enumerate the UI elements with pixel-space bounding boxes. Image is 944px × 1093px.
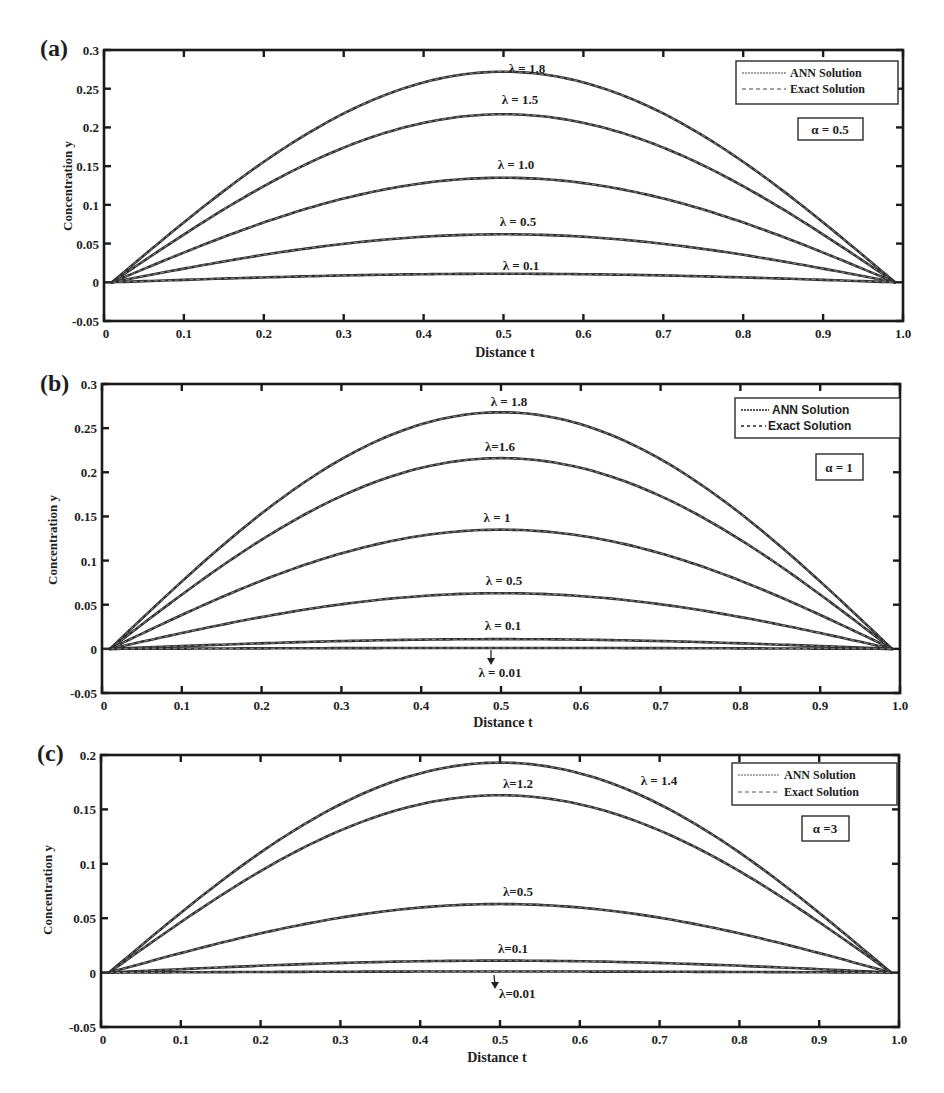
panel-c-legend: ANN Solution Exact Solution: [732, 763, 897, 805]
x-tick-label: 0.8: [731, 1032, 748, 1047]
y-tick-label: -0.05: [72, 314, 100, 329]
x-tick-label: 1.0: [891, 1032, 907, 1047]
panel-b-y-axis-label: Concentration y: [45, 495, 60, 585]
y-tick-label: -0.05: [69, 1020, 97, 1035]
panel-c-label-lambda-1-2: λ=1.2: [503, 776, 533, 791]
panel-c-label-lambda-1-4: λ = 1.4: [641, 773, 678, 788]
ann-solution-curve: [110, 648, 892, 649]
panel-a-tag: (a): [40, 35, 68, 61]
panel-b-label-lambda-0-1: λ = 0.1: [485, 618, 522, 633]
panel-b-alpha-label: α = 1: [825, 460, 853, 475]
x-tick-label: 0.6: [575, 326, 592, 341]
x-tick-label: 0.1: [176, 326, 192, 341]
panel-b-legend: ANN Solution Exact Solution: [735, 398, 900, 438]
y-tick-label: 0.05: [76, 237, 99, 252]
panel-b-legend-ann: ANN Solution: [772, 403, 849, 417]
figure: (a) -0.0500.050.10.150.20.250.3 00.10.20…: [0, 0, 944, 1093]
x-tick-label: 0.4: [415, 326, 432, 341]
y-tick-label: 0.3: [83, 43, 100, 58]
y-tick-label: -0.05: [70, 686, 98, 701]
x-tick-label: 0: [101, 698, 108, 713]
y-tick-label: 0.25: [74, 421, 97, 436]
x-tick-label: 0.2: [253, 698, 269, 713]
x-tick-label: 0.2: [252, 1032, 268, 1047]
panel-a: (a) -0.0500.050.10.150.20.250.3 00.10.20…: [40, 35, 911, 360]
x-tick-label: 0.9: [811, 1032, 828, 1047]
x-tick-label: 0.7: [655, 326, 672, 341]
y-tick-label: 0: [90, 966, 97, 981]
panel-c-label-lambda-0-5: λ=0.5: [503, 884, 534, 899]
y-tick-label: 0.15: [74, 509, 97, 524]
ann-solution-curve: [109, 904, 891, 973]
panel-a-label-lambda-0-5: λ = 0.5: [500, 214, 537, 229]
x-tick-label: 0.2: [256, 326, 272, 341]
panel-b-legend-exact: Exact Solution: [768, 419, 851, 433]
panel-c-x-axis-label: Distance t: [467, 1050, 527, 1065]
x-tick-label: 0.5: [495, 326, 512, 341]
panel-a-x-axis-label: Distance t: [475, 345, 535, 360]
x-tick-label: 0.5: [492, 1032, 509, 1047]
y-tick-label: 0.2: [83, 120, 99, 135]
panel-a-label-lambda-0-1: λ = 0.1: [503, 258, 540, 273]
panel-c-y-axis-label: Concentration y: [40, 845, 55, 935]
y-tick-label: 0: [93, 275, 100, 290]
panel-c-label-lambda-0-1: λ=0.1: [498, 941, 528, 956]
y-tick-label: 0.05: [73, 911, 96, 926]
panel-c-legend-exact: Exact Solution: [784, 785, 859, 799]
y-tick-label: 0.25: [76, 82, 99, 97]
panel-a-label-lambda-1-0: λ = 1.0: [498, 157, 535, 172]
x-tick-label: 0: [100, 1032, 107, 1047]
y-tick-label: 0.1: [81, 554, 97, 569]
panel-a-legend-ann: ANN Solution: [790, 66, 862, 80]
panel-b-label-lambda-1: λ = 1: [484, 510, 511, 525]
y-tick-label: 0.2: [81, 465, 97, 480]
panel-b-label-lambda-1-6: λ=1.6: [485, 439, 516, 454]
x-tick-label: 0.3: [333, 698, 350, 713]
x-tick-label: 0.3: [332, 1032, 349, 1047]
panel-b-label-lambda-0-01: λ = 0.01: [478, 665, 521, 680]
x-tick-label: 0.6: [573, 698, 590, 713]
y-tick-label: 0.3: [81, 377, 98, 392]
panel-c-alpha-label: α =3: [813, 821, 838, 836]
x-tick-label: 0: [103, 326, 110, 341]
panel-a-label-lambda-1-8: λ = 1.8: [509, 61, 546, 76]
panel-b: (b) -0.0500.050.10.150.20.250.3 00.10.20…: [40, 370, 908, 730]
y-tick-label: 0.15: [73, 802, 96, 817]
y-tick-label: 0.1: [80, 857, 96, 872]
panel-c-tag: (c): [37, 740, 64, 766]
y-tick-label: 0.1: [83, 198, 99, 213]
exact-solution-curve: [109, 904, 891, 973]
x-tick-label: 0.4: [413, 698, 430, 713]
panel-a-label-lambda-1-5: λ = 1.5: [502, 92, 539, 107]
panel-b-x-axis-label: Distance t: [473, 715, 533, 730]
x-tick-label: 0.9: [812, 698, 829, 713]
x-tick-label: 0.1: [174, 698, 190, 713]
y-tick-label: 0.2: [80, 748, 96, 763]
panel-a-legend-exact: Exact Solution: [790, 82, 865, 96]
x-tick-label: 0.1: [173, 1032, 189, 1047]
panel-b-arrowhead-icon: [487, 658, 495, 665]
x-tick-label: 0.4: [412, 1032, 429, 1047]
panel-a-alpha-label: α = 0.5: [811, 122, 849, 137]
y-tick-label: 0: [91, 642, 98, 657]
panel-a-y-axis-label: Concentration y: [60, 141, 75, 231]
panel-b-tag: (b): [40, 370, 69, 396]
panel-b-label-lambda-0-5: λ = 0.5: [486, 573, 523, 588]
x-tick-label: 0.5: [493, 698, 510, 713]
x-tick-label: 1.0: [895, 326, 911, 341]
x-tick-label: 0.9: [815, 326, 832, 341]
x-tick-label: 0.7: [652, 698, 669, 713]
figure-canvas: (a) -0.0500.050.10.150.20.250.3 00.10.20…: [0, 0, 944, 1093]
panel-c-arrowhead-icon: [491, 982, 499, 989]
panel-a-legend: ANN Solution Exact Solution: [736, 61, 898, 104]
x-tick-label: 0.3: [336, 326, 353, 341]
y-tick-label: 0.05: [74, 598, 97, 613]
x-tick-label: 1.0: [892, 698, 908, 713]
panel-b-label-lambda-1-8: λ = 1.8: [491, 394, 528, 409]
panel-c-legend-ann: ANN Solution: [784, 768, 856, 782]
x-tick-label: 0.6: [572, 1032, 589, 1047]
panel-c-label-lambda-0-01: λ=0.01: [499, 986, 536, 1001]
y-tick-label: 0.15: [76, 159, 99, 174]
x-tick-label: 0.8: [735, 326, 752, 341]
ann-solution-curve: [109, 972, 891, 973]
